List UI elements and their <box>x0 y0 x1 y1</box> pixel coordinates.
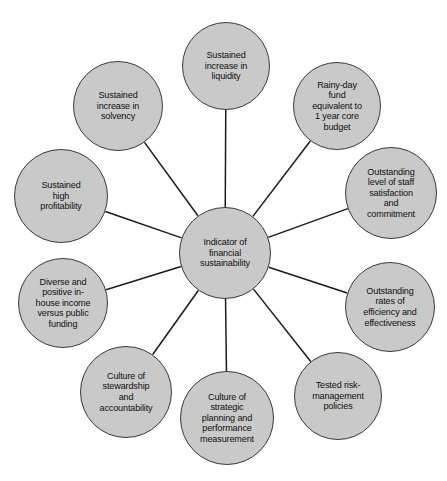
node-label: Culture of strategic planning and perfor… <box>187 392 266 445</box>
node-diverse-and-positive-in-house-income[interactable]: Diverse and positive in- house income ve… <box>18 258 108 348</box>
node-label: Sustained increase in solvency <box>80 90 156 122</box>
spoke-diverse-and-positive-in-house-income <box>106 267 181 290</box>
node-label: Indicator of financial sustainability <box>185 237 266 269</box>
node-label: Outstanding rates of efficiency and effe… <box>352 286 428 328</box>
hub-node-indicator-of-financial-sustainability[interactable]: Indicator of financial sustainability <box>179 207 271 299</box>
diagram-canvas: Indicator of financial sustainabilitySus… <box>0 0 447 481</box>
node-sustained-increase-in-solvency[interactable]: Sustained increase in solvency <box>73 61 163 151</box>
node-label: Outstanding level of staff satisfaction … <box>352 167 429 220</box>
spoke-sustained-increase-in-liquidity <box>225 110 226 207</box>
node-rates-of-efficiency-and-effectiveness[interactable]: Outstanding rates of efficiency and effe… <box>345 262 435 352</box>
node-staff-satisfaction-and-commitment[interactable]: Outstanding level of staff satisfaction … <box>345 147 437 239</box>
node-tested-risk-management-policies[interactable]: Tested risk- management policies <box>294 352 382 440</box>
node-sustained-high-profitability[interactable]: Sustained high profitability <box>14 149 108 243</box>
node-label: Tested risk- management policies <box>301 380 375 412</box>
node-label: Diverse and positive in- house income ve… <box>25 277 101 330</box>
spoke-culture-of-stewardship-and-accountability <box>153 290 199 354</box>
spoke-rates-of-efficiency-and-effectiveness <box>269 267 348 293</box>
node-label: Sustained high profitability <box>21 180 100 212</box>
spoke-staff-satisfaction-and-commitment <box>268 209 347 238</box>
spoke-tested-risk-management-policies <box>254 289 311 361</box>
spoke-culture-of-strategic-planning <box>226 299 227 371</box>
node-label: Rainy-day fund equivalent to 1 year core… <box>300 80 374 133</box>
node-rainy-day-fund[interactable]: Rainy-day fund equivalent to 1 year core… <box>293 62 381 150</box>
node-sustained-increase-in-liquidity[interactable]: Sustained increase in liquidity <box>182 22 270 110</box>
spoke-rainy-day-fund <box>253 141 310 216</box>
spoke-sustained-increase-in-solvency <box>144 142 197 215</box>
node-label: Sustained increase in liquidity <box>189 50 263 82</box>
node-culture-of-strategic-planning[interactable]: Culture of strategic planning and perfor… <box>180 371 274 465</box>
node-culture-of-stewardship-and-accountability[interactable]: Culture of stewardship and accountabilit… <box>80 346 172 438</box>
spoke-sustained-high-profitability <box>105 211 181 237</box>
node-label: Culture of stewardship and accountabilit… <box>87 371 164 413</box>
